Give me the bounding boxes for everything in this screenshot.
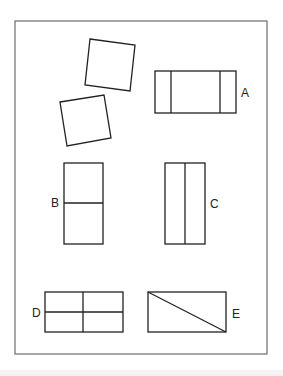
option-a-label: A — [241, 86, 249, 100]
option-d[interactable]: D — [32, 292, 123, 332]
option-e-diagonal — [148, 292, 226, 332]
unfolded-square-1 — [85, 39, 135, 91]
puzzle-figure: A B C D E — [0, 0, 283, 376]
bottom-band — [0, 370, 283, 376]
option-a[interactable]: A — [155, 71, 249, 113]
option-c-label: C — [210, 197, 219, 211]
option-e[interactable]: E — [148, 292, 240, 332]
unfolded-square-2 — [60, 95, 111, 146]
option-b[interactable]: B — [51, 163, 103, 244]
option-d-label: D — [32, 306, 41, 320]
option-b-label: B — [51, 196, 59, 210]
option-c[interactable]: C — [165, 163, 219, 244]
option-e-label: E — [232, 307, 240, 321]
option-a-rect — [155, 71, 236, 113]
